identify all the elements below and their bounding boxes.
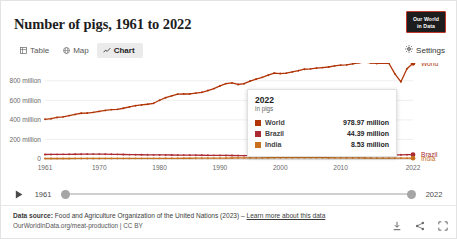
tab-table-label: Table — [30, 46, 49, 55]
series-point — [68, 115, 70, 117]
series-point — [285, 157, 287, 159]
expand-icon[interactable] — [437, 220, 448, 231]
tab-map[interactable]: Map — [57, 43, 97, 58]
series-point — [261, 76, 263, 78]
series-point — [285, 72, 287, 74]
series-point — [334, 157, 336, 159]
series-point — [358, 63, 360, 64]
series-point — [165, 157, 167, 159]
series-point — [116, 108, 118, 110]
timeline-handle-end[interactable] — [407, 190, 416, 199]
series-point — [98, 157, 100, 159]
series-point — [219, 157, 221, 159]
series-point — [153, 102, 155, 104]
owid-logo[interactable]: Our World in Data — [406, 11, 446, 33]
series-point — [225, 154, 227, 156]
series-point — [225, 157, 227, 159]
series-point — [213, 157, 215, 159]
series-point — [80, 158, 82, 160]
series-point — [249, 157, 251, 159]
series-point — [177, 154, 179, 156]
series-point — [86, 153, 88, 155]
series-point — [122, 154, 124, 156]
series-point — [207, 154, 209, 156]
source-text: Food and Agriculture Organization of the… — [55, 212, 239, 219]
series-point — [159, 99, 161, 101]
series-point — [376, 63, 378, 64]
settings-button[interactable]: Settings — [405, 45, 445, 55]
share-icon[interactable] — [414, 220, 425, 231]
tab-chart-label: Chart — [114, 46, 135, 55]
series-point — [225, 83, 227, 85]
series-point — [267, 157, 269, 159]
y-axis-tick-label: 400 million — [9, 116, 41, 123]
series-point — [62, 116, 64, 118]
attribution-line: OurWorldInData.org/meat-production | CC … — [13, 221, 446, 230]
series-point — [62, 158, 64, 160]
series-point — [116, 153, 118, 155]
learn-more-link[interactable]: Learn more about this data — [247, 212, 326, 219]
series-point — [237, 84, 239, 86]
series-point — [98, 110, 100, 112]
series-point — [129, 106, 131, 108]
series-point — [334, 65, 336, 67]
series-point — [171, 157, 173, 159]
series-point — [219, 85, 221, 87]
series-point — [388, 157, 390, 159]
series-point — [261, 157, 263, 159]
chart-footer: Data source: Food and Agriculture Organi… — [1, 205, 457, 239]
series-point — [153, 157, 155, 159]
series-point — [340, 157, 342, 159]
series-point — [370, 63, 372, 64]
series-point — [255, 157, 257, 159]
series-point — [129, 157, 131, 159]
x-axis-tick-label: 1990 — [213, 164, 228, 171]
series-point — [122, 107, 124, 109]
series-point — [394, 73, 396, 75]
series-point — [177, 157, 179, 159]
settings-label: Settings — [416, 46, 445, 55]
series-point — [110, 153, 112, 155]
download-icon[interactable] — [391, 220, 402, 231]
timeline-end-year: 2022 — [422, 190, 446, 199]
y-axis-tick-label: 600 million — [9, 97, 41, 104]
series-point — [279, 157, 281, 159]
series-point — [153, 154, 155, 156]
timeline-handle-start[interactable] — [61, 190, 70, 199]
x-axis-tick-label: 2022 — [406, 164, 421, 171]
y-axis-tick-label: 0 — [37, 155, 41, 162]
series-point — [267, 74, 269, 76]
source-line: Data source: Food and Agriculture Organi… — [13, 211, 446, 220]
series-point — [147, 154, 149, 156]
series-point — [231, 155, 233, 157]
series-point — [147, 157, 149, 159]
series-point — [237, 155, 239, 157]
series-point — [279, 73, 281, 75]
series-point — [141, 157, 143, 159]
series-point — [400, 157, 402, 159]
series-point — [80, 153, 82, 155]
y-axis-tick-label: 200 million — [9, 136, 41, 143]
series-point — [141, 154, 143, 156]
time-slider[interactable]: 1961 2022 — [1, 183, 457, 205]
timeline-track[interactable] — [61, 188, 416, 200]
tooltip-series-value: 978.97 million — [305, 119, 389, 126]
tab-chart[interactable]: Chart — [97, 43, 143, 58]
play-button[interactable] — [13, 188, 25, 200]
series-point — [135, 157, 137, 159]
series-point — [322, 157, 324, 159]
tooltip-year: 2022 — [255, 95, 389, 105]
series-point — [309, 68, 311, 70]
series-point — [183, 154, 185, 156]
series-point — [340, 64, 342, 66]
series-point — [110, 109, 112, 111]
series-point — [328, 66, 330, 68]
chart-icon — [103, 47, 111, 54]
series-point — [243, 83, 245, 85]
series-point — [183, 157, 185, 159]
tab-table[interactable]: Table — [14, 43, 57, 58]
series-point — [165, 97, 167, 99]
view-tabs: Table Map Chart — [14, 43, 143, 58]
series-point — [400, 81, 402, 83]
series-point — [44, 158, 46, 160]
